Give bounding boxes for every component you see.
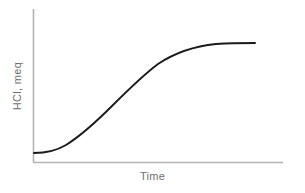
sigmoid-curve	[34, 43, 255, 153]
x-axis-label: Time	[0, 170, 305, 182]
plot-area	[0, 0, 305, 193]
y-axis-label-container: HCl, meq	[0, 0, 34, 171]
y-axis-label: HCl, meq	[11, 61, 23, 109]
chart-figure: HCl, meq Time	[0, 0, 305, 193]
